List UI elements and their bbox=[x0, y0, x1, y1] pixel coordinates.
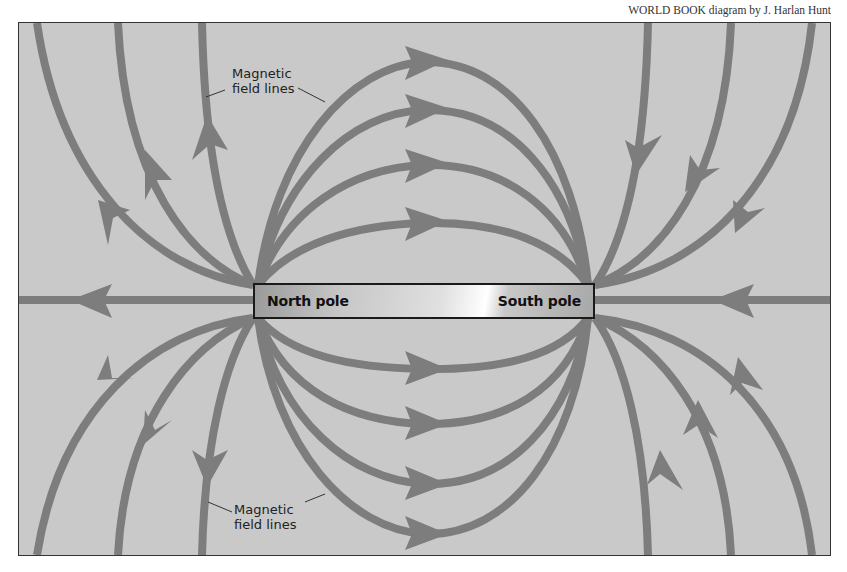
field-lines-label-top-line1: Magnetic bbox=[232, 66, 294, 81]
bar-magnet: North pole South pole bbox=[253, 283, 595, 319]
north-pole-label: North pole bbox=[267, 293, 349, 309]
field-lines-label-top-line2: field lines bbox=[232, 81, 294, 96]
field-lines-label-top: Magnetic field lines bbox=[232, 66, 294, 96]
field-lines-label-bottom-line2: field lines bbox=[234, 517, 296, 532]
south-pole-label: South pole bbox=[498, 293, 581, 309]
field-lines-label-bottom-line1: Magnetic bbox=[234, 502, 296, 517]
field-lines-label-bottom: Magnetic field lines bbox=[234, 502, 296, 532]
